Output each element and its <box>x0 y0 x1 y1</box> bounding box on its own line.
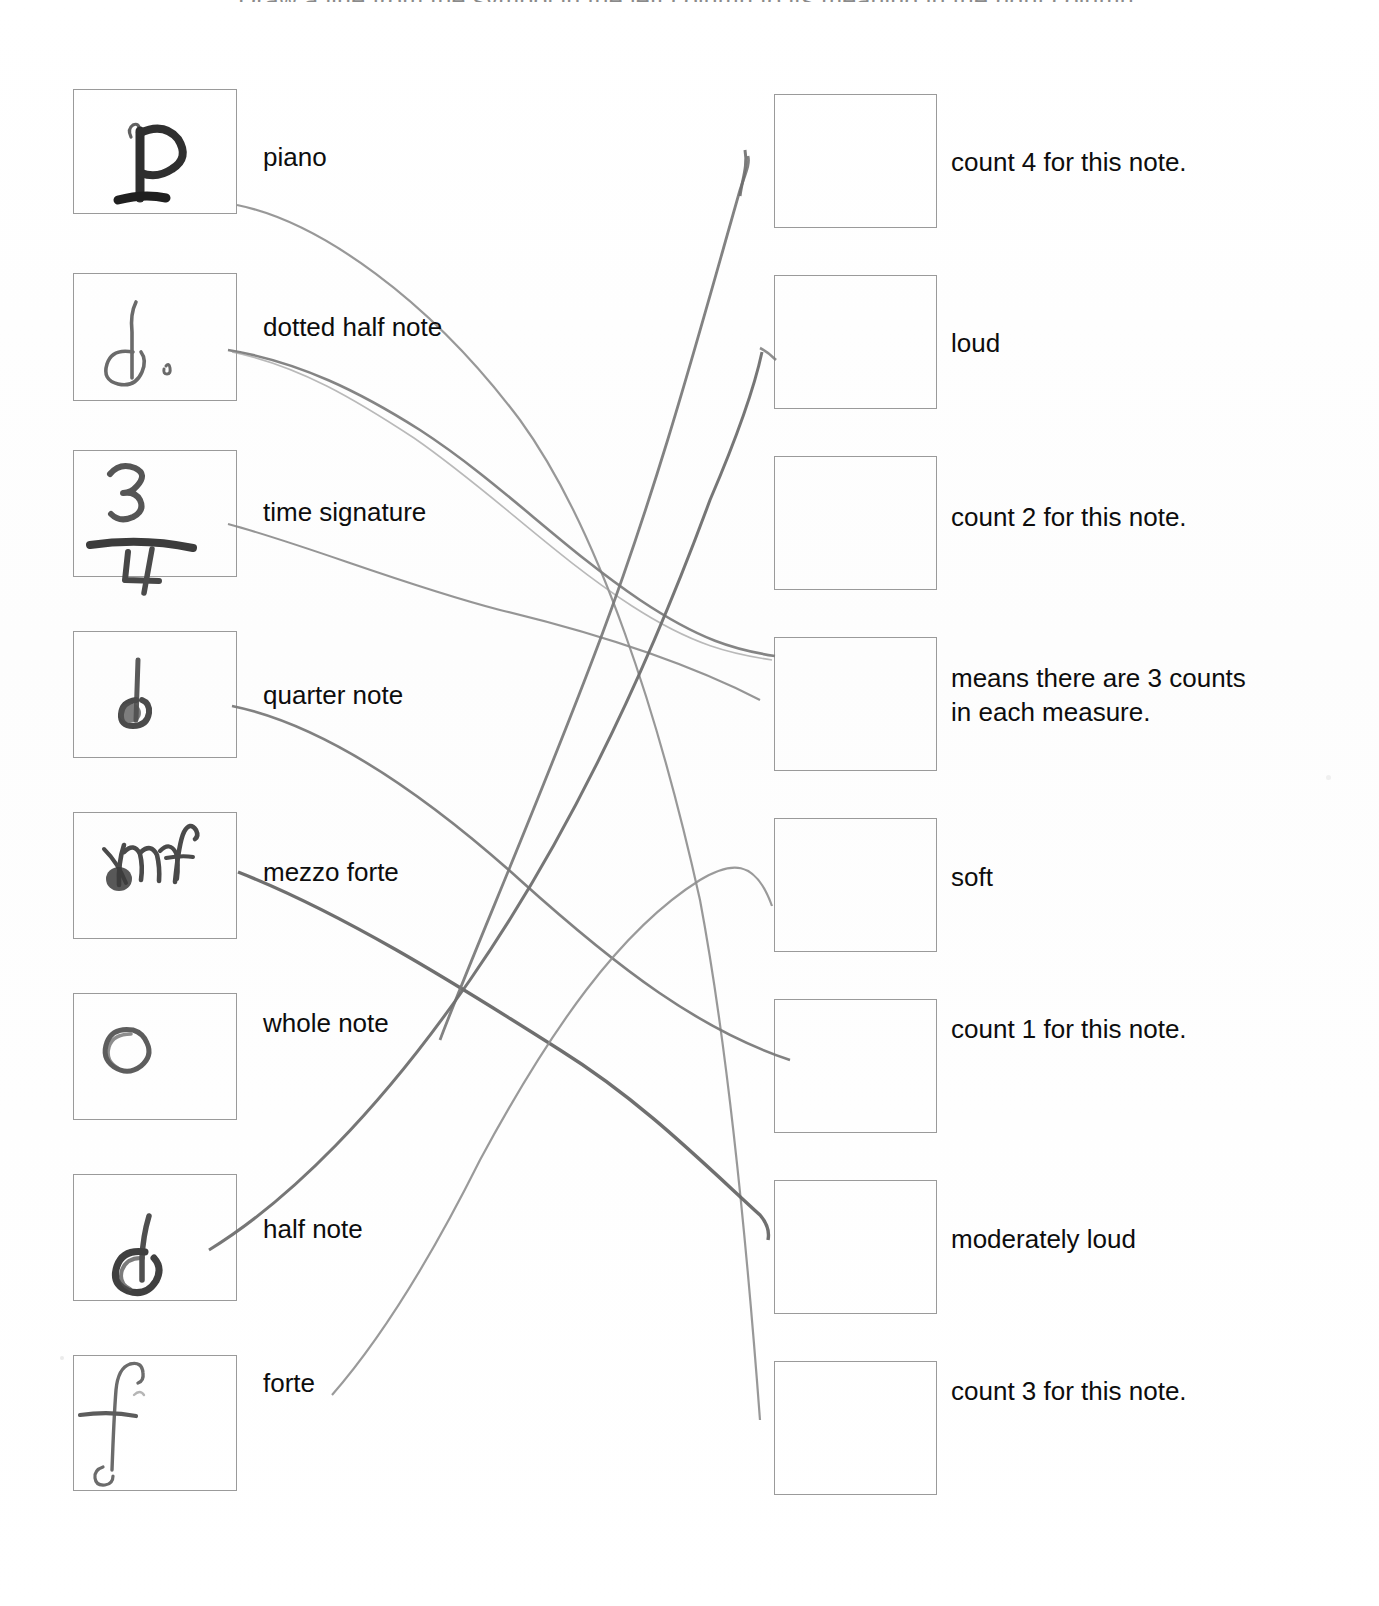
answer-box-8[interactable] <box>774 1361 937 1495</box>
answer-box-7[interactable] <box>774 1180 937 1314</box>
symbol-box-piano <box>73 89 237 214</box>
answer-box-5[interactable] <box>774 818 937 952</box>
right-label-count-1: count 1 for this note. <box>951 1012 1331 1046</box>
left-label-time-signature: time signature <box>263 495 426 529</box>
right-label-count-4: count 4 for this note. <box>951 145 1331 179</box>
answer-box-3[interactable] <box>774 456 937 590</box>
match-line-tail-box1 <box>740 150 746 196</box>
left-label-whole-note: whole note <box>263 1006 389 1040</box>
match-line-time-signature <box>228 524 760 700</box>
answer-box-2[interactable] <box>774 275 937 409</box>
match-line-whole-note <box>440 156 749 1040</box>
symbol-box-dotted-half-note <box>73 273 237 401</box>
symbol-box-quarter-note <box>73 631 237 758</box>
answer-box-6[interactable] <box>774 999 937 1133</box>
match-line-half-note <box>209 352 762 1250</box>
answer-box-4[interactable] <box>774 637 937 771</box>
right-label-moderately-loud: moderately loud <box>951 1222 1331 1256</box>
right-label-soft: soft <box>951 860 1331 894</box>
symbol-box-whole-note <box>73 993 237 1120</box>
left-label-quarter-note: quarter note <box>263 678 403 712</box>
left-label-dotted-half-note: dotted half note <box>263 310 442 344</box>
right-label-count-2: count 2 for this note. <box>951 500 1331 534</box>
left-label-piano: piano <box>263 140 327 174</box>
scan-speck <box>1326 775 1331 780</box>
scan-speck <box>60 1356 64 1360</box>
right-label-3-counts: means there are 3 counts in each measure… <box>951 661 1331 730</box>
match-line-forte <box>332 868 772 1395</box>
left-label-half-note: half note <box>263 1212 363 1246</box>
answer-box-1[interactable] <box>774 94 937 228</box>
left-label-mezzo-forte: mezzo forte <box>263 855 399 889</box>
symbol-box-forte <box>73 1355 237 1491</box>
match-line-mezzo-forte <box>238 872 769 1240</box>
left-label-forte: forte <box>263 1366 315 1400</box>
worksheet-instruction: Draw a line from the symbol in the left … <box>0 0 1379 2</box>
symbol-box-half-note <box>73 1174 237 1301</box>
right-label-count-3: count 3 for this note. <box>951 1374 1331 1408</box>
symbol-box-mezzo-forte <box>73 812 237 939</box>
worksheet-sheet: Draw a line from the symbol in the left … <box>0 0 1379 1606</box>
right-label-loud: loud <box>951 326 1331 360</box>
symbol-box-time-signature <box>73 450 237 577</box>
